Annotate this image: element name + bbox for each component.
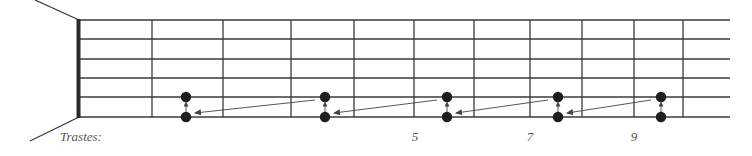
note-pair-2 — [320, 92, 330, 122]
perspective-line-top — [35, 0, 79, 20]
shift-arrow-3 — [456, 100, 548, 113]
note-dot-upper — [442, 92, 452, 102]
fret-number-5: 5 — [412, 129, 419, 144]
note-dot-lower — [442, 112, 452, 122]
fret-number-7: 7 — [527, 129, 534, 144]
note-dot-upper — [553, 92, 563, 102]
shift-arrow-4 — [567, 100, 651, 113]
nut-bar — [77, 19, 81, 118]
note-pair-5 — [656, 92, 666, 122]
note-dot-upper — [656, 92, 666, 102]
note-pair-3 — [442, 92, 452, 122]
shift-arrow-2 — [334, 100, 437, 113]
fret-labels: Trastes: 579 — [60, 129, 638, 144]
shift-arrow-1 — [195, 100, 315, 113]
note-dot-upper — [320, 92, 330, 102]
note-pair-4 — [553, 92, 563, 122]
perspective-lines — [30, 0, 79, 141]
note-dot-lower — [181, 112, 191, 122]
nut — [77, 19, 81, 118]
note-pair-1 — [181, 92, 191, 122]
trastes-label: Trastes: — [60, 129, 102, 144]
note-dot-lower — [656, 112, 666, 122]
note-dot-upper — [181, 92, 191, 102]
fret-number-9: 9 — [631, 129, 638, 144]
note-dot-lower — [553, 112, 563, 122]
fretboard-diagram: Trastes: 579 — [0, 0, 752, 156]
note-dot-lower — [320, 112, 330, 122]
fretboard-svg: Trastes: 579 — [0, 0, 752, 156]
